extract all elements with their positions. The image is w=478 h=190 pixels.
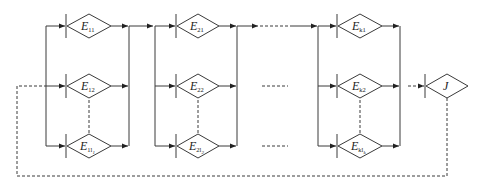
feedback-path <box>17 86 447 176</box>
feedback-loop <box>17 86 447 176</box>
series-parallel-diagram: E11 E12 E1l1 E21 E22 <box>0 0 478 190</box>
stage-1: E11 E12 E1l1 <box>46 14 129 158</box>
node-j-label: J <box>443 79 449 93</box>
output-j: J <box>408 74 468 98</box>
stage-k: Ek1 Ek2 Eklk <box>318 14 400 158</box>
stage-2: E21 E22 E2l2 <box>155 14 237 158</box>
